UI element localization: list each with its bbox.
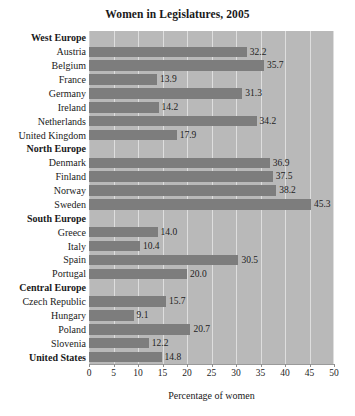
tick-mark-35 (261, 364, 262, 367)
bar (89, 296, 166, 307)
bar-row: 36.9 (89, 156, 334, 170)
bar-row: 30.5 (89, 253, 334, 267)
bar-value-label: 14.0 (161, 228, 178, 238)
bar (89, 158, 270, 169)
bar-value-label: 13.9 (160, 75, 177, 85)
category-label: South Europe (0, 214, 86, 224)
tick-label-20: 20 (182, 369, 192, 379)
bar (89, 269, 187, 280)
category-label: Italy (0, 242, 86, 252)
tick-label-15: 15 (158, 369, 168, 379)
bar (89, 241, 140, 252)
tick-label-40: 40 (280, 369, 290, 379)
bar-value-label: 30.5 (241, 256, 258, 266)
tick-mark-5 (114, 364, 115, 367)
bar-value-label: 14.8 (165, 353, 182, 363)
category-label: Sweden (0, 200, 86, 210)
plot-area: 32.235.713.931.314.234.217.936.937.538.2… (89, 31, 334, 364)
bar-value-label: 35.7 (267, 61, 284, 71)
bar (89, 102, 159, 113)
category-label: Germany (0, 89, 86, 99)
bar-value-label: 15.7 (169, 297, 186, 307)
bar-value-label: 14.2 (162, 103, 179, 113)
bar-row: 20.0 (89, 267, 334, 281)
tick-label-30: 30 (231, 369, 241, 379)
category-label: Finland (0, 172, 86, 182)
tick-mark-0 (89, 364, 90, 367)
tick-mark-30 (236, 364, 237, 367)
category-label: Czech Republic (0, 297, 86, 307)
bar-row: 37.5 (89, 170, 334, 184)
category-label: United States (0, 353, 86, 363)
bar-row: 45.3 (89, 198, 334, 212)
tick-mark-25 (212, 364, 213, 367)
tick-label-45: 45 (305, 369, 315, 379)
bar-value-label: 32.2 (250, 48, 267, 58)
category-label: Slovenia (0, 339, 86, 349)
bar-row: 13.9 (89, 73, 334, 87)
bar (89, 199, 311, 210)
bar (89, 185, 276, 196)
category-label: Portugal (0, 269, 86, 279)
bar (89, 171, 273, 182)
category-label: Austria (0, 47, 86, 57)
category-label: Hungary (0, 311, 86, 321)
category-label: North Europe (0, 144, 86, 154)
category-label: Norway (0, 186, 86, 196)
bar-value-label: 45.3 (314, 200, 331, 210)
bar-value-label: 36.9 (273, 159, 290, 169)
category-label: Netherlands (0, 117, 86, 127)
bar (89, 352, 162, 363)
bar (89, 338, 149, 349)
bar (89, 227, 158, 238)
bar-row: 20.7 (89, 322, 334, 336)
tick-label-0: 0 (87, 369, 92, 379)
bar-row: 31.3 (89, 87, 334, 101)
bar (89, 60, 264, 71)
bar (89, 116, 257, 127)
category-label: Belgium (0, 61, 86, 71)
bar-row: 17.9 (89, 128, 334, 142)
category-label: United Kingdom (0, 131, 86, 141)
bar-value-label: 38.2 (279, 186, 296, 196)
tick-mark-50 (334, 364, 335, 367)
bar-row: 35.7 (89, 59, 334, 73)
bar (89, 88, 242, 99)
category-label: France (0, 75, 86, 85)
bar-value-label: 10.4 (143, 242, 160, 252)
category-label: Central Europe (0, 283, 86, 293)
bar (89, 255, 238, 266)
category-label: Denmark (0, 158, 86, 168)
bar-row: 38.2 (89, 184, 334, 198)
tick-mark-45 (310, 364, 311, 367)
chart-title: Women in Legislatures, 2005 (0, 8, 355, 20)
x-axis-ticks: 05101520253035404550 (89, 364, 334, 380)
tick-mark-15 (163, 364, 164, 367)
bar-row: 34.2 (89, 114, 334, 128)
bar (89, 74, 157, 85)
tick-mark-20 (187, 364, 188, 367)
bar (89, 130, 177, 141)
bar-row: 9.1 (89, 309, 334, 323)
bar (89, 324, 190, 335)
category-label: Ireland (0, 103, 86, 113)
tick-label-50: 50 (329, 369, 339, 379)
tick-mark-40 (285, 364, 286, 367)
bar (89, 310, 134, 321)
x-axis-title: Percentage of women (89, 390, 334, 401)
bar-value-label: 17.9 (180, 131, 197, 141)
bars-layer: 32.235.713.931.314.234.217.936.937.538.2… (89, 31, 334, 364)
chart-container: Women in Legislatures, 2005 West EuropeA… (0, 0, 355, 416)
bar (89, 47, 247, 58)
category-label: Spain (0, 255, 86, 265)
bar-row: 12.2 (89, 336, 334, 350)
category-axis-labels: West EuropeAustriaBelgiumFranceGermanyIr… (0, 31, 86, 364)
category-label: Greece (0, 228, 86, 238)
bar-value-label: 37.5 (276, 172, 293, 182)
bar-value-label: 31.3 (245, 89, 262, 99)
category-label: West Europe (0, 33, 86, 43)
bar-row: 14.2 (89, 100, 334, 114)
bar-row: 15.7 (89, 295, 334, 309)
bar-row: 32.2 (89, 45, 334, 59)
bar-value-label: 20.7 (193, 325, 210, 335)
